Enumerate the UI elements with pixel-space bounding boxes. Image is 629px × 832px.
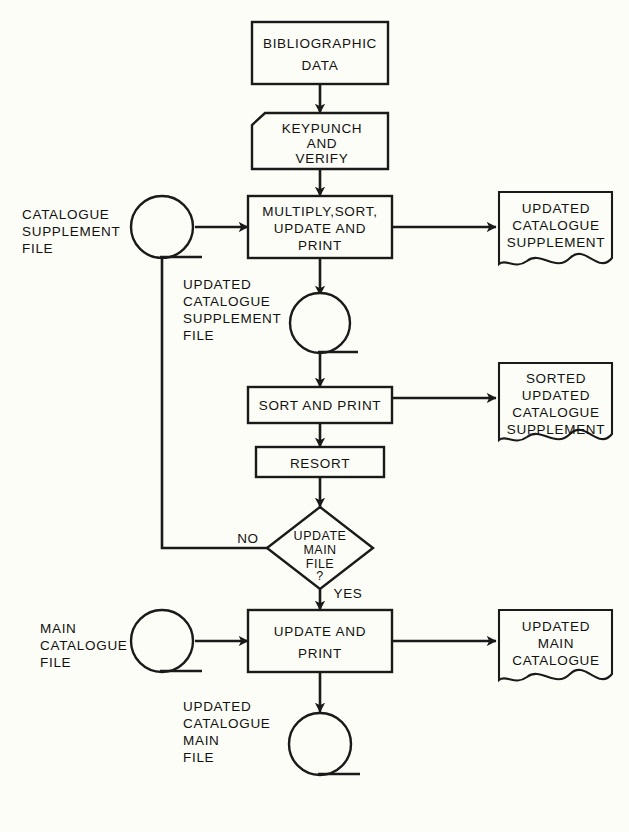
node-catalogue-supplement-file[interactable]: CATALOGUE SUPPLEMENT FILE	[22, 196, 202, 258]
updated-main-catalogue-file-label-2: CATALOGUE	[183, 716, 271, 731]
update-and-print-line-1: UPDATE AND	[274, 624, 366, 639]
updated-catalogue-supplement-file-label-1: UPDATED	[183, 277, 251, 292]
resort-line-1: RESORT	[290, 456, 350, 471]
sorted-updated-doc-line-1: SORTED	[526, 371, 586, 386]
updated-catalogue-supplement-doc-line-2: CATALOGUE	[512, 218, 600, 233]
decision-line-4: ?	[316, 569, 323, 583]
updated-catalogue-supplement-doc-line-3: SUPPLEMENT	[507, 235, 606, 250]
sorted-updated-doc-line-4: SUPPLEMENT	[507, 422, 606, 437]
decision-branch-yes-label: YES	[333, 586, 362, 601]
updated-main-catalogue-file-label-3: MAIN	[183, 733, 220, 748]
node-multiply-sort-update-print[interactable]: MULTIPLY,SORT, UPDATE AND PRINT	[248, 196, 392, 258]
sorted-updated-doc-line-3: CATALOGUE	[512, 405, 600, 420]
bibliographic-data-line-2: DATA	[302, 58, 339, 73]
updated-catalogue-supplement-file-label-3: SUPPLEMENT	[183, 311, 282, 326]
updated-main-catalogue-doc-line-1: UPDATED	[522, 619, 590, 634]
catalogue-supplement-file-label-1: CATALOGUE	[22, 207, 110, 222]
multiply-line-3: PRINT	[298, 238, 342, 253]
updated-main-catalogue-file-label-1: UPDATED	[183, 699, 251, 714]
main-catalogue-file-label-3: FILE	[40, 655, 71, 670]
bibliographic-data-line-1: BIBLIOGRAPHIC	[263, 36, 377, 51]
catalogue-supplement-file-label-3: FILE	[22, 241, 53, 256]
node-keypunch-and-verify[interactable]: KEYPUNCH AND VERIFY	[252, 113, 388, 169]
node-update-main-file-decision[interactable]: UPDATE MAIN FILE ? NO YES	[237, 507, 373, 601]
catalogue-supplement-file-label-2: SUPPLEMENT	[22, 224, 121, 239]
updated-catalogue-supplement-file-label-4: FILE	[183, 328, 214, 343]
keypunch-line-1: KEYPUNCH	[282, 121, 363, 136]
node-sorted-updated-catalogue-supplement-document[interactable]: SORTED UPDATED CATALOGUE SUPPLEMENT	[499, 363, 612, 440]
updated-main-catalogue-doc-line-3: CATALOGUE	[512, 653, 600, 668]
main-catalogue-file-label-1: MAIN	[40, 621, 77, 636]
node-updated-catalogue-supplement-document[interactable]: UPDATED CATALOGUE SUPPLEMENT	[499, 192, 612, 264]
flowchart-canvas: BIBLIOGRAPHIC DATA KEYPUNCH AND VERIFY C…	[0, 0, 629, 832]
node-updated-main-catalogue-file[interactable]: UPDATED CATALOGUE MAIN FILE	[183, 699, 360, 775]
updated-catalogue-supplement-doc-line-1: UPDATED	[522, 201, 590, 216]
sorted-updated-doc-line-2: UPDATED	[522, 388, 590, 403]
decision-branch-no-label: NO	[237, 531, 259, 546]
sort-and-print-line-1: SORT AND PRINT	[259, 398, 382, 413]
tape-symbol-updated-main-catalogue	[289, 713, 351, 775]
node-updated-catalogue-supplement-file[interactable]: UPDATED CATALOGUE SUPPLEMENT FILE	[183, 277, 358, 353]
node-update-and-print[interactable]: UPDATE AND PRINT	[248, 610, 392, 672]
node-updated-main-catalogue-document[interactable]: UPDATED MAIN CATALOGUE	[499, 610, 612, 680]
tape-symbol-catalogue-supplement	[131, 196, 193, 258]
tape-symbol-updated-catalogue-supplement	[290, 293, 350, 353]
node-resort[interactable]: RESORT	[256, 447, 384, 477]
multiply-line-1: MULTIPLY,SORT,	[262, 204, 377, 219]
tape-symbol-main-catalogue	[131, 610, 193, 672]
node-bibliographic-data[interactable]: BIBLIOGRAPHIC DATA	[252, 22, 388, 84]
keypunch-line-2: AND	[307, 136, 338, 151]
keypunch-line-3: VERIFY	[296, 151, 349, 166]
node-sort-and-print[interactable]: SORT AND PRINT	[248, 387, 392, 423]
update-and-print-line-2: PRINT	[298, 646, 342, 661]
updated-main-catalogue-file-label-4: FILE	[183, 750, 214, 765]
node-main-catalogue-file[interactable]: MAIN CATALOGUE FILE	[40, 610, 202, 672]
updated-catalogue-supplement-file-label-2: CATALOGUE	[183, 294, 271, 309]
main-catalogue-file-label-2: CATALOGUE	[40, 638, 128, 653]
decision-line-2: MAIN	[303, 543, 336, 557]
updated-main-catalogue-doc-line-2: MAIN	[538, 636, 575, 651]
multiply-line-2: UPDATE AND	[274, 221, 366, 236]
decision-line-1: UPDATE	[294, 529, 347, 543]
